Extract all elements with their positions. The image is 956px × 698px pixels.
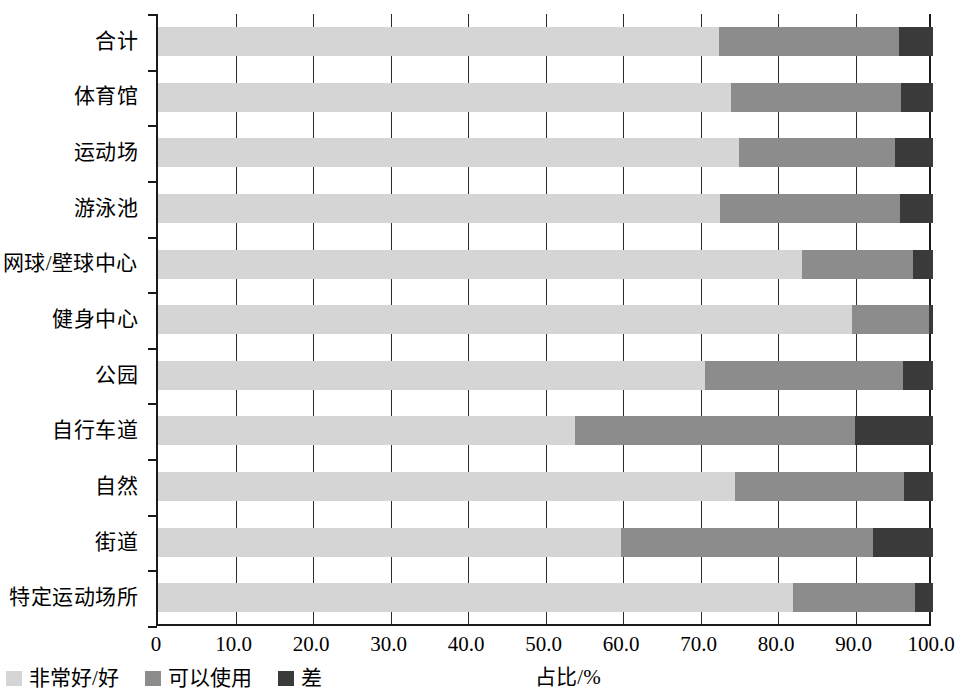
category-tick (148, 459, 157, 461)
bar-segment[interactable] (793, 583, 915, 612)
bar-segment[interactable] (731, 83, 902, 112)
bar-row (158, 403, 929, 459)
stacked-bar[interactable] (158, 305, 929, 334)
bar-row (158, 292, 929, 348)
stacked-bar[interactable] (158, 416, 929, 445)
bar-segment[interactable] (158, 83, 731, 112)
bar-segment[interactable] (720, 194, 900, 223)
legend-label: 可以使用 (168, 668, 252, 689)
bar-segment[interactable] (915, 583, 933, 612)
category-label: 自行车道 (52, 420, 138, 441)
category-label: 特定运动场所 (9, 587, 138, 608)
bar-segment[interactable] (719, 27, 899, 56)
value-tick-label: 0 (151, 632, 162, 657)
category-label: 运动场 (74, 142, 139, 163)
bar-row (158, 348, 929, 404)
category-label: 体育馆 (74, 86, 139, 107)
stacked-bar[interactable] (158, 27, 929, 56)
bar-segment[interactable] (705, 361, 903, 390)
bar-segment[interactable] (158, 583, 793, 612)
bar-segment[interactable] (855, 416, 933, 445)
category-label: 合计 (95, 31, 138, 52)
bar-segment[interactable] (901, 83, 933, 112)
category-tick (148, 348, 157, 350)
stacked-bar-chart: 合计体育馆运动场游泳池网球/壁球中心健身中心公园自行车道自然街道特定运动场所 0… (0, 0, 956, 698)
bar-segment[interactable] (158, 472, 735, 501)
bar-segment[interactable] (158, 194, 720, 223)
bar-row (158, 459, 929, 515)
bar-segment[interactable] (899, 27, 933, 56)
category-label: 网球/壁球中心 (3, 253, 138, 274)
stacked-bar[interactable] (158, 138, 929, 167)
legend-label: 差 (301, 668, 322, 689)
stacked-bar[interactable] (158, 472, 929, 501)
bar-row (158, 570, 929, 626)
bar-segment[interactable] (575, 416, 855, 445)
stacked-bar[interactable] (158, 583, 929, 612)
category-label: 健身中心 (52, 309, 138, 330)
bar-segment[interactable] (158, 361, 705, 390)
bar-row (158, 181, 929, 237)
bar-segment[interactable] (158, 27, 719, 56)
stacked-bar[interactable] (158, 528, 929, 557)
category-tick (148, 125, 157, 127)
legend-item[interactable]: 非常好/好 (6, 668, 119, 689)
legend-swatch-icon (6, 671, 22, 686)
category-label: 街道 (95, 532, 138, 553)
value-tick-label: 20.0 (293, 632, 330, 657)
legend-item[interactable]: 差 (278, 668, 322, 689)
legend-swatch-icon (278, 671, 294, 686)
value-tick-label: 40.0 (448, 632, 485, 657)
bar-row (158, 515, 929, 571)
bar-segment[interactable] (913, 250, 933, 279)
value-tick-label: 60.0 (603, 632, 640, 657)
bar-segment[interactable] (621, 528, 874, 557)
category-label: 公园 (95, 365, 138, 386)
category-tick (148, 14, 157, 16)
bar-segment[interactable] (158, 416, 575, 445)
value-axis-labels: 010.020.030.040.050.060.070.080.090.0100… (0, 632, 956, 662)
legend-swatch-icon (145, 671, 161, 686)
value-tick-label: 10.0 (215, 632, 252, 657)
bar-rows (158, 14, 929, 624)
bar-segment[interactable] (929, 305, 933, 334)
bar-row (158, 70, 929, 126)
bar-segment[interactable] (904, 472, 933, 501)
category-tick (148, 292, 157, 294)
value-tick-label: 50.0 (525, 632, 562, 657)
plot-area (156, 14, 931, 626)
bar-segment[interactable] (903, 361, 933, 390)
category-tick (148, 70, 157, 72)
stacked-bar[interactable] (158, 250, 929, 279)
value-tick-label: 80.0 (758, 632, 795, 657)
stacked-bar[interactable] (158, 361, 929, 390)
x-axis-title-text: 占比/% (535, 665, 600, 689)
bar-segment[interactable] (158, 528, 621, 557)
bar-segment[interactable] (158, 138, 739, 167)
category-tick (148, 403, 157, 405)
bar-segment[interactable] (735, 472, 904, 501)
category-tick (148, 626, 157, 628)
category-tick (148, 570, 157, 572)
bar-segment[interactable] (900, 194, 933, 223)
bar-segment[interactable] (158, 250, 802, 279)
stacked-bar[interactable] (158, 194, 929, 223)
value-tick-label: 70.0 (680, 632, 717, 657)
category-axis-labels: 合计体育馆运动场游泳池网球/壁球中心健身中心公园自行车道自然街道特定运动场所 (0, 14, 146, 626)
value-tick-label: 30.0 (370, 632, 407, 657)
bar-row (158, 14, 929, 70)
bar-segment[interactable] (873, 528, 933, 557)
category-tick (148, 237, 157, 239)
bar-segment[interactable] (158, 305, 852, 334)
bar-segment[interactable] (895, 138, 933, 167)
value-tick-label: 90.0 (835, 632, 872, 657)
legend-item[interactable]: 可以使用 (145, 668, 252, 689)
bar-row (158, 237, 929, 293)
bar-row (158, 125, 929, 181)
category-tick (148, 181, 157, 183)
bar-segment[interactable] (852, 305, 930, 334)
bar-segment[interactable] (739, 138, 895, 167)
bar-segment[interactable] (802, 250, 913, 279)
category-tick (148, 515, 157, 517)
stacked-bar[interactable] (158, 83, 929, 112)
